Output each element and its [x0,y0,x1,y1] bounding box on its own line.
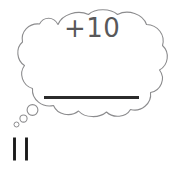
worksheet-graphic-canvas: +10 [0,0,177,174]
thought-bubble-illustration: +10 [0,0,177,174]
tail-circle-small [14,122,19,127]
expression-text: +10 [64,13,120,43]
tail-circle-medium [20,115,27,122]
tail-circle-large [27,105,38,116]
